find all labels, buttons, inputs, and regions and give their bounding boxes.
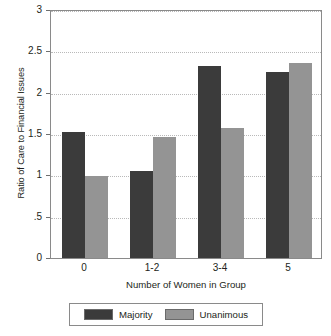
y-axis-tick-label: 2 [8,88,42,98]
y-axis-tick-label: 1.5 [8,129,42,139]
bar-unanimous-0 [85,176,108,258]
gridline [51,11,321,12]
x-axis-tick-label: 5 [258,263,318,273]
legend-label-majority: Majority [119,309,153,320]
y-axis-tick-label: 2.5 [8,46,42,56]
bar-majority-0 [62,132,85,258]
bar-chart-figure: Ratio of Care to Financial Issues 0.511.… [0,0,331,336]
chart-legend: Majority Unanimous [69,303,263,326]
bar-unanimous-1-2 [153,137,176,258]
x-axis-tick-label: 3-4 [190,263,250,273]
legend-label-unanimous: Unanimous [200,309,249,320]
y-axis-tick-label: 3 [8,5,42,15]
y-axis-tick-label: .5 [8,212,42,222]
x-axis-tick-label: 1-2 [122,263,182,273]
bar-majority-3-4 [198,66,221,258]
x-axis-tick-label: 0 [54,263,114,273]
bar-unanimous-3-4 [221,128,244,258]
legend-item-majority: Majority [84,309,153,320]
bar-unanimous-5 [289,63,312,258]
y-axis-tick-label: 1 [8,170,42,180]
legend-item-unanimous: Unanimous [165,309,249,320]
gridline [51,52,321,53]
x-axis-title: Number of Women in Group [50,279,322,290]
legend-swatch-majority-icon [84,309,113,320]
y-axis-tick-label: 0 [8,253,42,263]
legend-swatch-unanimous-icon [165,309,194,320]
plot-area [50,10,322,259]
bar-majority-1-2 [130,171,153,258]
bar-majority-5 [266,72,289,258]
